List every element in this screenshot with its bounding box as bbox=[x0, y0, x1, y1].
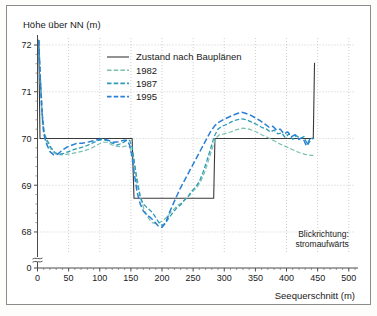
y-tick-label: 71 bbox=[21, 87, 31, 97]
x-tick-label: 200 bbox=[154, 273, 169, 283]
annotation-line-2: stromaufwärts bbox=[295, 239, 348, 249]
legend-label: 1982 bbox=[136, 65, 157, 76]
x-axis-title: Seequerschnitt (m) bbox=[275, 290, 355, 301]
series-line-zustand-nach-baupl-nen bbox=[38, 40, 315, 198]
x-tick-label: 300 bbox=[217, 273, 232, 283]
y-tick-label: 69 bbox=[21, 181, 31, 191]
figure-container: 6869707172005010015020025030035040045050… bbox=[0, 0, 377, 316]
x-tick-label: 50 bbox=[64, 273, 74, 283]
y-tick-label: 68 bbox=[21, 227, 31, 237]
chart-legend: Zustand nach Bauplänen198219871995 bbox=[107, 51, 242, 102]
series-line-1995 bbox=[39, 40, 314, 227]
x-tick-label: 150 bbox=[123, 273, 138, 283]
x-tick-label: 350 bbox=[248, 273, 263, 283]
x-tick-label: 0 bbox=[35, 273, 40, 283]
annotation-line-1: Blickrichtung: bbox=[298, 229, 349, 239]
legend-label: Zustand nach Bauplänen bbox=[136, 51, 242, 62]
x-tick-label: 250 bbox=[186, 273, 201, 283]
series-line-1987 bbox=[39, 40, 314, 225]
y-axis-title: Höhe über NN (m) bbox=[23, 19, 101, 30]
data-series bbox=[38, 40, 315, 227]
y-tick-label: 70 bbox=[21, 134, 31, 144]
x-tick-label: 400 bbox=[279, 273, 294, 283]
cross-section-chart: 6869707172005010015020025030035040045050… bbox=[0, 0, 377, 316]
y-tick-label-zero: 0 bbox=[26, 263, 31, 273]
gridlines bbox=[38, 38, 356, 253]
y-axis-break-symbol-2 bbox=[33, 258, 43, 259]
y-axis-break-symbol bbox=[33, 261, 43, 262]
x-tick-label: 500 bbox=[341, 273, 356, 283]
chart-annotations: Blickrichtung:stromaufwärts bbox=[295, 229, 348, 249]
legend-label: 1995 bbox=[136, 91, 157, 102]
legend-label: 1987 bbox=[136, 78, 157, 89]
x-tick-label: 100 bbox=[92, 273, 107, 283]
y-tick-label: 72 bbox=[21, 40, 31, 50]
x-tick-label: 450 bbox=[310, 273, 325, 283]
